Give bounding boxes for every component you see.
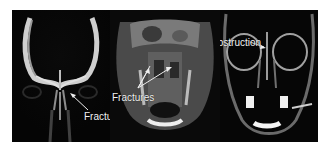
annotation-fracture: Fracture xyxy=(84,112,110,122)
ct-image-skull xyxy=(12,10,110,142)
panel-axial-face: Fractures xyxy=(110,10,220,142)
ct-figure: Fracture Fractures xyxy=(12,10,318,142)
annotation-obstruction: Obstruction xyxy=(220,38,261,48)
ct-image-axial xyxy=(110,10,220,142)
annotation-fractures: Fractures xyxy=(112,93,154,103)
ct-image-coronal-face xyxy=(220,10,318,142)
panel-coronal-skull: Fracture xyxy=(12,10,110,142)
panel-coronal-face: Obstruction xyxy=(220,10,318,142)
